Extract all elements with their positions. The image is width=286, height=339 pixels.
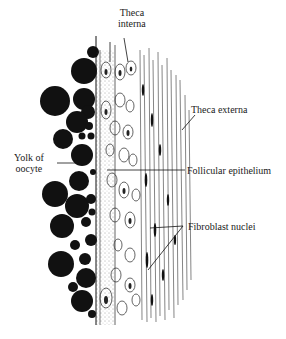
label-yolk-of-oocyte: Yolk of oocyte: [14, 152, 44, 174]
follicle-wall-diagram: Theca interna Theca externa Yolk of oocy…: [0, 0, 286, 339]
label-theca-externa: Theca externa: [191, 104, 247, 115]
label-theca-interna: Theca interna: [118, 7, 146, 29]
yolk-globules: [40, 46, 99, 318]
label-follicular-epithelium: Follicular epithelium: [187, 165, 271, 176]
theca-externa-fibres: [140, 48, 191, 322]
label-fibroblast-nuclei: Fibroblast nuclei: [188, 221, 256, 232]
